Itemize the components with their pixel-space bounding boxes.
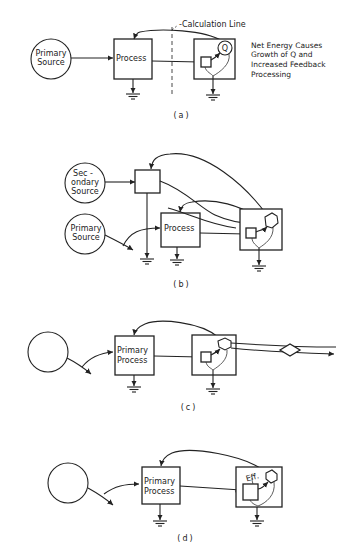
- energy-diagram-figure: Primary Source Process -Calculation Line…: [0, 0, 358, 544]
- ground-icon: [250, 507, 264, 526]
- ground-icon: [153, 504, 167, 526]
- process-label: Primary: [117, 346, 148, 355]
- secondary-process-box: [135, 170, 160, 193]
- panel-b: Sec - ondary Source Primary Source Proce…: [65, 154, 282, 289]
- interaction-box: [246, 228, 256, 238]
- process-label: Primary: [144, 477, 175, 486]
- interaction-box: [201, 352, 211, 362]
- source-label: Primary: [71, 224, 102, 233]
- export-flow: [231, 343, 336, 347]
- ground-icon: [126, 79, 140, 99]
- note-line: Growth of Q and: [251, 50, 313, 59]
- note-line: Increased Feedback: [251, 60, 326, 69]
- source-circle: [28, 332, 68, 372]
- process-label: Process: [164, 224, 194, 233]
- interaction-box: [243, 484, 258, 500]
- interaction-box: [201, 57, 211, 67]
- secondary-source-label: Sec -: [73, 169, 93, 178]
- process-label: Process: [117, 356, 147, 365]
- source-label: Source: [37, 58, 65, 67]
- storage-label: Q: [222, 44, 228, 53]
- secondary-source-label: Source: [71, 187, 99, 196]
- calculation-line-label: -Calculation Line: [179, 20, 246, 29]
- secondary-source-label: ondary: [71, 178, 99, 187]
- source-label: Primary: [36, 49, 67, 58]
- note-line: Processing: [251, 70, 291, 79]
- panel-caption: (a): [173, 111, 190, 120]
- panel-a: Primary Source Process -Calculation Line…: [31, 20, 326, 120]
- panel-caption: (d): [177, 534, 194, 543]
- note-line: Net Energy Causes: [251, 41, 322, 50]
- ground-icon: [252, 248, 266, 271]
- source-label: Source: [72, 233, 100, 242]
- panel-d: Primary Process Eff. (d): [48, 451, 282, 543]
- process-label: Process: [116, 54, 146, 63]
- panel-caption: (c): [181, 403, 198, 412]
- source-circle: [48, 463, 88, 503]
- ground-icon: [127, 375, 141, 392]
- ground-icon: [170, 247, 184, 265]
- process-label: Process: [144, 487, 174, 496]
- panel-caption: (b): [173, 280, 190, 289]
- panel-c: Primary Process (c): [28, 321, 336, 412]
